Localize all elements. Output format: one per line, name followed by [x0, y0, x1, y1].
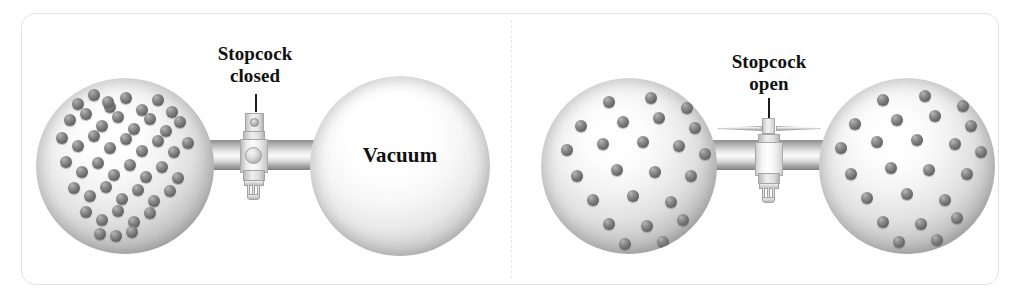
stopcock-closed-leader-line [255, 94, 257, 112]
stopcock-tail-foot [247, 194, 260, 200]
stopcock-handle-open-wing-left-icon[interactable] [718, 126, 762, 131]
stopcock-closed-label: Stopcock [165, 44, 345, 65]
stopcock-open[interactable] [511, 0, 1022, 300]
stopcock-plug-closed-icon [245, 147, 262, 164]
apparatus-open: Stopcock open [511, 0, 1022, 300]
stopcock-handle-open-wing-right-icon[interactable] [776, 126, 820, 131]
stopcock-open-label-line2: open [679, 74, 859, 95]
stopcock-open-label: Stopcock [679, 52, 859, 73]
stopcock-handle-endface-icon [250, 118, 259, 127]
stopcock-open-panel: Stopcock open [511, 0, 1022, 300]
stopcock-tail-foot [762, 197, 775, 203]
figure-root: Vacuum Stopcock closed [0, 0, 1022, 300]
stopcock-open-leader-line [768, 98, 770, 118]
stopcock-closed-label-line2: closed [165, 66, 345, 87]
stopcock-handle-open-stem-icon[interactable] [762, 118, 775, 134]
apparatus-closed: Vacuum Stopcock closed [0, 0, 511, 300]
stopcock-body [755, 142, 783, 176]
stopcock-closed-panel: Vacuum Stopcock closed [0, 0, 511, 300]
